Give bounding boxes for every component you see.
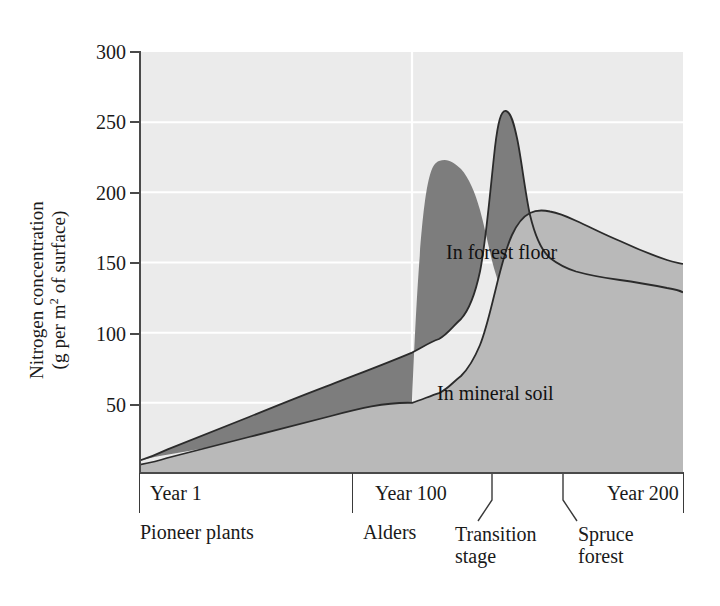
x-axis-label-year-1: Year 1 <box>150 482 202 505</box>
x-axis-label-year-200: Year 200 <box>607 482 679 505</box>
series-label-forest-floor: In forest floor <box>446 241 557 264</box>
x-axis-label-year-100: Year 100 <box>375 482 447 505</box>
stage-label-spruce-forest: Spruce forest <box>578 523 634 568</box>
figure-container: Nitrogen concentration (g per m2 of surf… <box>0 0 720 606</box>
stage-label-alders: Alders <box>363 521 416 543</box>
y-axis-title: Nitrogen concentration (g per m2 of surf… <box>26 140 82 440</box>
y-tick-label-50: 50 <box>80 395 126 415</box>
stage-label-spruce-line2: forest <box>578 545 624 567</box>
y-axis-units-prefix: (g per m <box>48 304 69 369</box>
y-axis-title-line1: Nitrogen concentration <box>26 140 48 440</box>
y-tick-label-150: 150 <box>80 253 126 273</box>
stage-label-transition-stage: Transition stage <box>455 523 537 568</box>
y-axis-units-suffix: of surface) <box>48 211 69 299</box>
y-tick-label-100: 100 <box>80 324 126 344</box>
y-axis-units-superscript: 2 <box>47 298 61 304</box>
y-axis-title-line2: (g per m2 of surface) <box>48 140 70 440</box>
stage-label-transition-line2: stage <box>455 545 496 567</box>
x-axis-stage-band: Year 1 Year 100 Year 200 Pioneer plants … <box>0 473 720 606</box>
stage-label-transition-line1: Transition <box>455 523 537 545</box>
y-tick-label-300: 300 <box>80 42 126 62</box>
area-chart-svg <box>140 52 683 473</box>
y-tick-label-200: 200 <box>80 183 126 203</box>
plot-area: In forest floor In mineral soil <box>140 52 683 473</box>
stage-label-pioneer-plants: Pioneer plants <box>140 521 254 543</box>
series-label-mineral-soil: In mineral soil <box>437 382 554 405</box>
y-axis-line <box>139 51 141 474</box>
stage-label-spruce-line1: Spruce <box>578 523 634 545</box>
y-tick-label-250: 250 <box>80 112 126 132</box>
